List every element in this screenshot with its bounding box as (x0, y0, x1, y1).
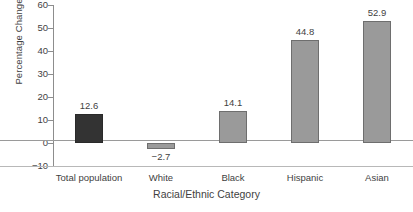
plot-area: 12.6−2.714.144.852.9 (53, 5, 413, 166)
bar (291, 40, 319, 143)
bar-value-label: −2.7 (131, 152, 191, 162)
y-tick-label: 10 (22, 115, 48, 125)
bar-value-label: 12.6 (59, 101, 119, 111)
bar-value-label: 44.8 (275, 27, 335, 37)
y-tick-label: 60 (22, 0, 48, 10)
bar (147, 143, 175, 149)
bar (75, 114, 103, 143)
bar (363, 21, 391, 143)
bar-value-label: 14.1 (203, 98, 263, 108)
y-tick-label: 30 (22, 69, 48, 79)
bar (219, 111, 247, 143)
x-tick-label: Asian (322, 173, 413, 183)
x-axis-title: Racial/Ethnic Category (0, 188, 413, 200)
y-tick-label: 20 (22, 92, 48, 102)
bar-value-label: 52.9 (347, 8, 407, 18)
y-tick-label: 50 (22, 23, 48, 33)
y-tick-label: 40 (22, 46, 48, 56)
bar-chart: Percentage Change 6050403020100−10 12.6−… (0, 0, 413, 212)
axis-baseline (0, 166, 413, 167)
